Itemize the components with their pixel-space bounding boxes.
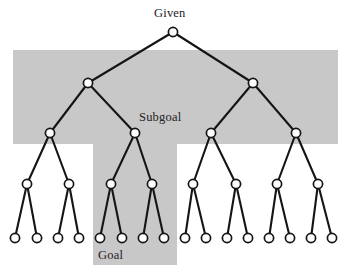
tree-edge — [236, 184, 248, 238]
tree-edge — [277, 184, 290, 238]
tree-edge — [69, 184, 79, 238]
tree-node — [22, 179, 31, 188]
tree-leaf-node — [306, 233, 315, 242]
tree-leaf-node — [327, 233, 336, 242]
tree-leaf-node — [74, 233, 83, 242]
subgoal-label: Subgoal — [139, 110, 181, 125]
tree-node — [206, 128, 215, 137]
goal-label: Goal — [98, 248, 123, 263]
tree-leaf-node — [138, 233, 147, 242]
tree-edge — [27, 184, 37, 238]
tree-node — [188, 179, 197, 188]
tree-node — [231, 179, 240, 188]
tree-leaf-node — [264, 233, 273, 242]
tree-leaf-node — [53, 233, 62, 242]
tree-leaf-node — [201, 233, 210, 242]
tree-edge — [227, 184, 236, 238]
tree-node — [130, 128, 139, 137]
tree-node — [147, 179, 156, 188]
tree-leaf-node — [10, 233, 19, 242]
tree-edge — [193, 184, 206, 238]
tree-edge — [311, 184, 318, 238]
tree-root-node — [168, 27, 177, 36]
tree-diagram-figure: Given Subgoal Goal — [0, 0, 350, 280]
given-label: Given — [154, 6, 186, 21]
tree-node — [272, 179, 281, 188]
tree-edge — [185, 184, 193, 238]
tree-node — [291, 128, 300, 137]
tree-leaf-node — [243, 233, 252, 242]
tree-edge — [318, 184, 332, 238]
tree-leaf-node — [180, 233, 189, 242]
tree-edge — [58, 184, 69, 238]
tree-edge — [269, 184, 277, 238]
tree-canvas — [0, 0, 350, 280]
tree-leaf-node — [285, 233, 294, 242]
tree-leaf-node — [159, 233, 168, 242]
tree-leaf-node — [222, 233, 231, 242]
tree-node — [45, 128, 54, 137]
tree-leaf-node — [117, 233, 126, 242]
tree-edge — [15, 184, 27, 238]
tree-leaf-node — [32, 233, 41, 242]
tree-node — [83, 78, 92, 87]
tree-node — [248, 78, 257, 87]
tree-node — [313, 179, 322, 188]
tree-node — [106, 179, 115, 188]
tree-node — [64, 179, 73, 188]
tree-leaf-node — [95, 233, 104, 242]
